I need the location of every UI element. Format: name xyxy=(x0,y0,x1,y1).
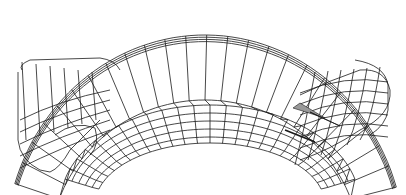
floor-arc-line xyxy=(99,143,321,189)
radial-top-line xyxy=(266,55,288,113)
radial-floor-line xyxy=(205,100,210,143)
radial-floor-line xyxy=(92,141,122,165)
radial-top-line xyxy=(205,35,207,100)
radial-floor-line xyxy=(73,159,108,177)
radial-top-line xyxy=(106,63,130,119)
radial-floor-line xyxy=(298,141,325,165)
fold-dark-wedge xyxy=(310,112,340,126)
outer-rim-line xyxy=(17,39,394,188)
radial-floor-line xyxy=(321,179,355,195)
radial-top-line xyxy=(221,36,228,100)
radial-top-line xyxy=(125,53,144,112)
duct-wireframe-diagram xyxy=(0,0,406,195)
radial-top-line xyxy=(252,46,269,107)
radial-top-line xyxy=(345,166,390,185)
radial-top-line xyxy=(186,36,190,101)
radial-floor-line xyxy=(116,126,140,156)
radial-top-line xyxy=(15,184,60,195)
left-end-vertical-line xyxy=(22,62,26,140)
radial-top-line xyxy=(236,40,248,103)
left-end-horizontal-line xyxy=(20,100,110,132)
radial-top-line xyxy=(351,187,397,195)
radial-top-line xyxy=(165,39,174,103)
left-end-vertical-line xyxy=(64,68,68,128)
left-end-vertical-line xyxy=(36,64,40,136)
mesh-lines xyxy=(15,35,397,195)
radial-top-line xyxy=(144,45,158,107)
left-end-vertical-line xyxy=(50,66,54,132)
left-end-vertical-line xyxy=(92,72,96,120)
